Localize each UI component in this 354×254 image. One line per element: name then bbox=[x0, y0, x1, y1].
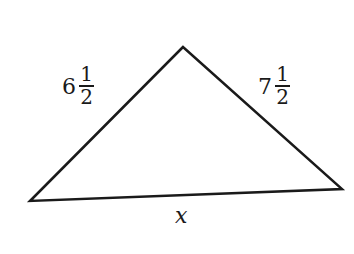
right-side-label: 7 1 2 bbox=[258, 64, 290, 108]
right-side-numerator: 1 bbox=[275, 64, 290, 85]
right-side-denominator: 2 bbox=[275, 87, 290, 108]
base-label: x bbox=[175, 203, 187, 228]
left-side-label: 6 1 2 bbox=[62, 64, 94, 108]
right-side-fraction: 1 2 bbox=[275, 64, 290, 108]
left-side-numerator: 1 bbox=[79, 64, 94, 85]
right-side-whole: 7 bbox=[258, 74, 272, 99]
left-side-denominator: 2 bbox=[79, 87, 94, 108]
left-side-whole: 6 bbox=[62, 74, 76, 99]
left-side-fraction: 1 2 bbox=[79, 64, 94, 108]
